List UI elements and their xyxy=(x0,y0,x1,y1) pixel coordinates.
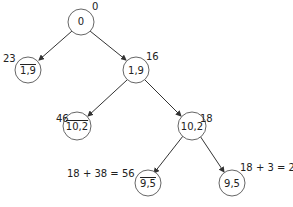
edge-n19-n102 xyxy=(145,80,181,116)
cost-label-n1bar9: 23 xyxy=(3,54,16,64)
edge-n19-n10bar2 xyxy=(88,80,127,116)
cost-label-n95: 18 + 3 = 21 xyxy=(240,163,293,173)
edge-n102-n9bar5 xyxy=(154,136,183,173)
edge-n102-n95 xyxy=(200,136,224,172)
node-n9bar5-text: 9,5 xyxy=(140,179,156,189)
cost-label-n102: 18 xyxy=(200,114,213,124)
edge-root-n1bar9 xyxy=(39,31,72,60)
cost-label-root: 0 xyxy=(92,2,98,12)
cost-label-n10bar2: 46 xyxy=(56,114,69,124)
node-n1bar9-text: 1,9 xyxy=(20,66,36,76)
node-n19-text: 1,9 xyxy=(128,66,144,76)
cost-label-n9bar5: 18 + 38 = 56 xyxy=(67,169,135,179)
edge-root-n19 xyxy=(90,31,126,60)
tree-diagram xyxy=(0,0,293,207)
node-n95-text: 9,5 xyxy=(224,179,240,189)
cost-label-n19: 16 xyxy=(146,52,159,62)
node-n10bar2-text: 10,2 xyxy=(66,122,88,132)
node-root-text: 0 xyxy=(78,17,84,27)
